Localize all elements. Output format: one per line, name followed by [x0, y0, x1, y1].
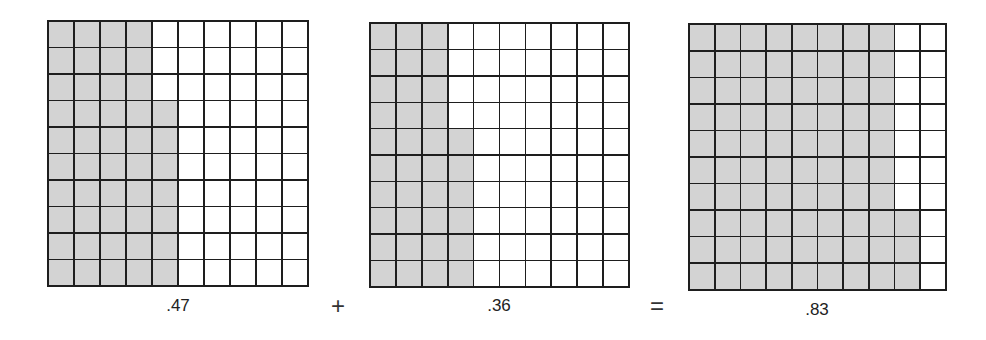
grid-cell — [741, 105, 765, 130]
grid-cell — [283, 48, 307, 73]
grid-cell — [716, 211, 740, 236]
grid-cell — [179, 234, 203, 259]
grid-cell — [690, 52, 714, 77]
grid-cell — [449, 24, 473, 49]
grid-cell — [500, 156, 524, 181]
grid-cell — [578, 182, 602, 207]
grid-cell — [153, 154, 177, 179]
grid-cell — [397, 261, 421, 286]
grid-cell — [921, 131, 945, 156]
grid-cell — [101, 128, 125, 153]
grid-cell — [75, 181, 99, 206]
grid-cell — [49, 207, 73, 232]
grid-cell — [500, 208, 524, 233]
grid-cell — [153, 207, 177, 232]
grid-cell — [49, 260, 73, 285]
grid-cell — [257, 48, 281, 73]
grid-cell — [423, 129, 447, 154]
grid-cell — [870, 184, 894, 209]
grid-cell — [767, 158, 791, 183]
grid-cell — [153, 128, 177, 153]
grid-cell — [423, 261, 447, 286]
grid-cell — [793, 25, 817, 50]
grid-cell — [578, 103, 602, 128]
grid-cell — [604, 77, 628, 102]
grid-cell — [690, 105, 714, 130]
grid-cell — [818, 105, 842, 130]
grid-cell — [578, 156, 602, 181]
grid-cell — [793, 211, 817, 236]
grid-cell — [818, 237, 842, 262]
grid-cell — [818, 131, 842, 156]
grid-cell — [844, 78, 868, 103]
grid-cell — [101, 234, 125, 259]
grid-cell — [205, 75, 229, 100]
grid-cell — [818, 25, 842, 50]
grid-cell — [793, 264, 817, 289]
grid-cell — [793, 131, 817, 156]
grid-cell — [921, 237, 945, 262]
grid-cell — [552, 261, 576, 286]
grid-cell — [500, 103, 524, 128]
grid-cell — [127, 234, 151, 259]
grid-cell — [101, 260, 125, 285]
grid-cell — [716, 52, 740, 77]
grid-cell — [75, 234, 99, 259]
grid-cell — [474, 103, 498, 128]
grid-cell — [205, 101, 229, 126]
grid-cell — [526, 77, 550, 102]
grid-cell — [49, 101, 73, 126]
grid-cell — [257, 101, 281, 126]
grid-cell — [818, 78, 842, 103]
grid-cell — [474, 182, 498, 207]
grid-cell — [767, 105, 791, 130]
grid-cell — [741, 52, 765, 77]
grid-cell — [101, 22, 125, 47]
grid-cell — [153, 22, 177, 47]
grid-cell — [231, 234, 255, 259]
grid-cell — [870, 105, 894, 130]
grid-cell — [179, 260, 203, 285]
grid-cell — [844, 211, 868, 236]
grid-cell — [474, 261, 498, 286]
grid-cell — [474, 24, 498, 49]
grid-cell — [257, 75, 281, 100]
grid-cell — [49, 22, 73, 47]
grid-cell — [49, 181, 73, 206]
grid-cell — [818, 158, 842, 183]
grid-cell — [818, 52, 842, 77]
grid-cell — [690, 78, 714, 103]
grid-cell — [526, 129, 550, 154]
grid-cell — [921, 211, 945, 236]
grid-cell — [205, 22, 229, 47]
grid-cell — [716, 105, 740, 130]
grid-cell — [449, 129, 473, 154]
grid-cell — [101, 154, 125, 179]
grid-cell — [423, 156, 447, 181]
grid-cell — [870, 237, 894, 262]
grid-cell — [397, 156, 421, 181]
grid-cell — [870, 264, 894, 289]
grid-cell — [474, 50, 498, 75]
grid-cell — [552, 235, 576, 260]
grid-cell — [283, 101, 307, 126]
grid-cell — [552, 129, 576, 154]
grid-cell — [371, 261, 395, 286]
grid-cell — [690, 184, 714, 209]
grid-cell — [397, 182, 421, 207]
grid-cell — [205, 234, 229, 259]
grid-cell — [716, 78, 740, 103]
grid-cell — [526, 103, 550, 128]
grid-cell — [231, 128, 255, 153]
grid-cell — [741, 25, 765, 50]
grid-cell — [741, 131, 765, 156]
grid-cell — [690, 158, 714, 183]
grid-cell — [500, 50, 524, 75]
grid-cell — [449, 235, 473, 260]
grid-cell — [423, 24, 447, 49]
grid-cell — [690, 211, 714, 236]
grid-cell — [767, 237, 791, 262]
grid-cell — [371, 129, 395, 154]
hundred-grid-083 — [688, 23, 947, 291]
grid-cell — [767, 264, 791, 289]
